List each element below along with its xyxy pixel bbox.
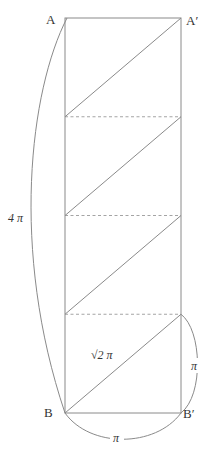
label-right-arc-pi: π <box>191 359 198 373</box>
diagonal-2 <box>65 117 181 216</box>
left-arc-4pi <box>31 18 67 413</box>
label-left-arc-4pi: 4 π <box>8 211 24 225</box>
diagonal-4 <box>65 314 181 413</box>
label-B-prime: B′ <box>183 406 195 421</box>
diagonal-1 <box>65 18 181 117</box>
diagonal-3 <box>65 216 181 315</box>
label-B: B <box>44 405 53 420</box>
helix-unrolled-diagram: A A′ B B′ 4 π √2 π π π <box>0 0 212 452</box>
label-diagonal-sqrt2pi: √2 π <box>91 348 114 362</box>
label-bottom-arc-pi: π <box>113 431 120 445</box>
label-A: A <box>46 12 56 27</box>
label-A-prime: A′ <box>186 13 198 28</box>
